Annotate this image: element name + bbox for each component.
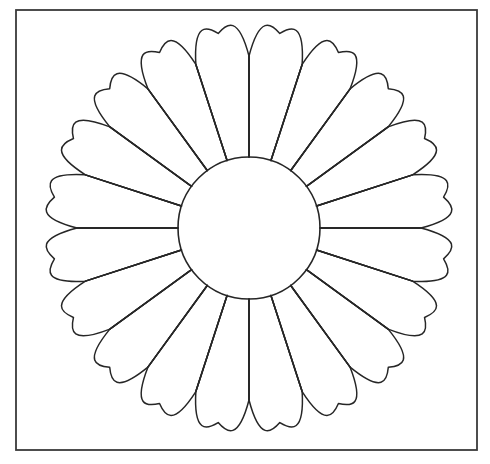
artboard-canvas <box>0 0 490 464</box>
rosette-illustration-svg <box>0 0 490 464</box>
canvas-background <box>0 0 490 464</box>
